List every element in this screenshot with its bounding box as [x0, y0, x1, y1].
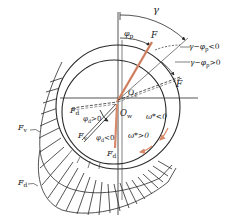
bearing-diagram: γ φp F γ−φp<0 γ−φp>0 F̃ Oc Ow Fd φd>0 Fv… [0, 0, 229, 221]
label-omega-pos: ω*>0 [128, 131, 149, 140]
label-phi-d-neg: φd<0 [96, 134, 114, 143]
label-F-tilde: F̃ [175, 78, 183, 89]
label-Fv-outer: Fv [17, 123, 28, 133]
gamma-phi-neg-arc [155, 45, 180, 50]
label-gamma: γ [153, 4, 159, 15]
label-omega-neg: ω*<0 [146, 112, 167, 121]
phi-p-arc [120, 38, 150, 45]
label-F: F [150, 30, 158, 40]
label-Fd-outer: Fd [17, 178, 28, 188]
label-gamma-minus-phi-pos: γ−φp>0 [190, 58, 221, 69]
label-phi-d-pos: φd>0 [83, 115, 101, 124]
label-gamma-minus-phi-neg: γ−φp<0 [189, 42, 220, 53]
